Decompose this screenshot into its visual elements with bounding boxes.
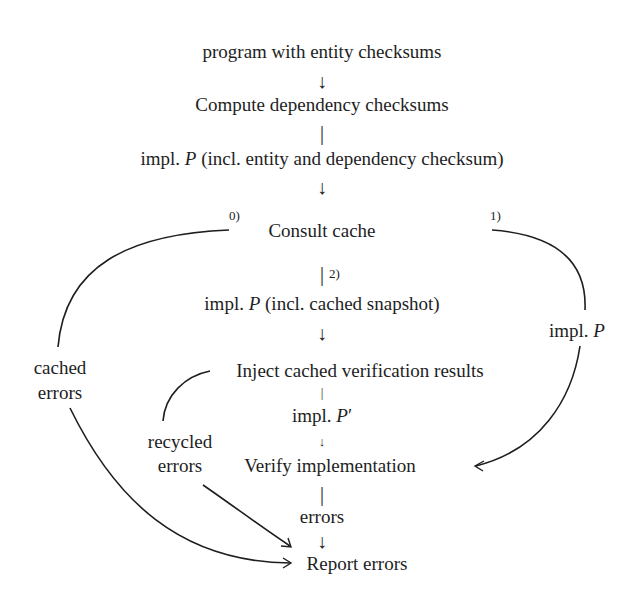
side-label-recycled-errors: errors (158, 455, 202, 477)
edge-recycled-top (163, 371, 210, 421)
edge-1-bottom (476, 346, 580, 466)
node-inject-cached-results: Inject cached verification results (236, 360, 483, 382)
edge-1-top (492, 230, 585, 310)
bar-connector-icon: | (320, 264, 324, 284)
branch-label-1: 1) (490, 208, 501, 223)
down-arrow-icon: ↓ (317, 531, 327, 551)
bar-connector-icon: | (321, 383, 324, 403)
side-label-recycled: recycled (148, 431, 212, 453)
side-label-cached-errors: errors (38, 382, 82, 404)
small-down-arrow-icon: ↓ (319, 432, 326, 452)
down-arrow-icon: ↓ (317, 177, 327, 197)
down-arrow-icon: ↓ (317, 71, 327, 91)
bar-connector-icon: | (320, 123, 324, 143)
side-label-cached: cached (34, 357, 87, 379)
arrowhead-verify (475, 461, 484, 471)
down-arrow-icon: ↓ (317, 323, 327, 343)
node-consult-cache: Consult cache (268, 220, 375, 242)
node-impl-p-full: impl. P (incl. entity and dependency che… (140, 148, 503, 170)
node-report-errors: Report errors (307, 553, 408, 575)
bar-connector-icon: | (320, 484, 324, 504)
node-errors: errors (300, 506, 344, 528)
edge-recycled-bottom (203, 485, 290, 546)
node-compute-dependency-checksums: Compute dependency checksums (195, 94, 448, 116)
node-program: program with entity checksums (202, 41, 441, 63)
node-verify-implementation: Verify implementation (244, 455, 415, 477)
node-impl-p-prime: impl. P′ (292, 405, 352, 427)
side-label-impl-p: impl. P (549, 320, 605, 342)
node-impl-p-snapshot: impl. P (incl. cached snapshot) (204, 293, 439, 315)
edge-cached-errors-top (58, 230, 229, 347)
branch-label-0: 0) (229, 208, 240, 223)
branch-label-2: 2) (329, 266, 340, 281)
